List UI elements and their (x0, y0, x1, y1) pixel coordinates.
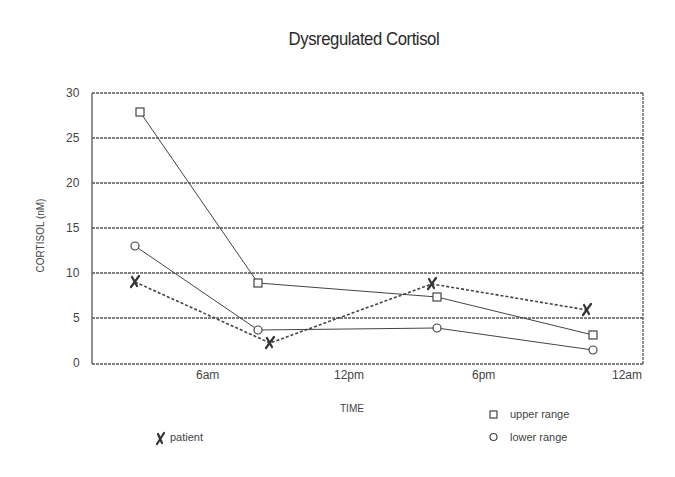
legend-circle-icon (490, 434, 497, 441)
ytick-5: 5 (73, 311, 80, 325)
legend-lower-label: lower range (510, 431, 567, 443)
ytick-10: 10 (66, 266, 79, 280)
series-lower-range (135, 246, 593, 350)
plot-area (0, 0, 675, 477)
gridlines (92, 93, 643, 364)
xtick-6am: 6am (196, 368, 219, 382)
legend-square-icon (490, 411, 497, 418)
legend-upper-range: upper range (510, 408, 569, 420)
legend-lower-range: lower range (510, 431, 567, 443)
legend-x-icon (157, 433, 164, 444)
y-axis-label: CORTISOL (nM) (35, 186, 46, 286)
x-axis-label: TIME (340, 403, 364, 414)
ytick-20: 20 (66, 176, 79, 190)
legend-patient: patient (170, 431, 203, 443)
xtick-12pm: 12pm (334, 368, 364, 382)
ytick-15: 15 (66, 221, 79, 235)
legend-upper-label: upper range (510, 408, 569, 420)
ytick-30: 30 (66, 86, 79, 100)
lower-range-markers (131, 242, 597, 354)
xtick-12am: 12am (612, 368, 642, 382)
ytick-25: 25 (66, 131, 79, 145)
xtick-6pm: 6pm (472, 368, 495, 382)
upper-range-markers (136, 108, 597, 339)
series-upper-range (140, 112, 593, 335)
ytick-0: 0 (73, 356, 80, 370)
legend-patient-label: patient (170, 431, 203, 443)
